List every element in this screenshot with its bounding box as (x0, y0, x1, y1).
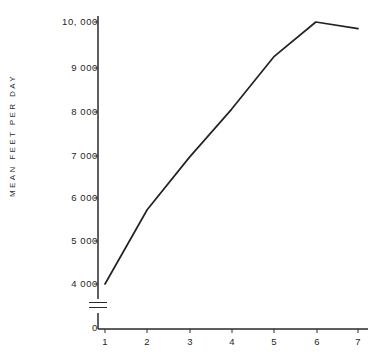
plot-area (0, 0, 374, 359)
figure-caption (0, 352, 374, 359)
data-series-line (105, 22, 358, 284)
line-chart: MEAN FEET PER DAY 10, 0009 0008 0007 000… (0, 0, 374, 359)
